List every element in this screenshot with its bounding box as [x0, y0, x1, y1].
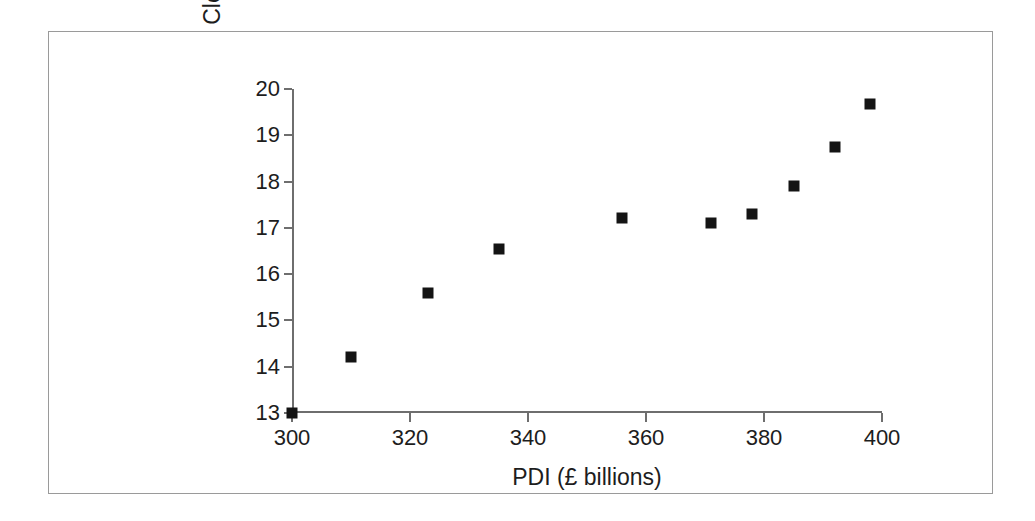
x-axis-tick	[645, 413, 647, 422]
y-axis-tick-label: 16	[256, 263, 280, 285]
x-axis-tick	[763, 413, 765, 422]
data-point	[346, 352, 357, 363]
y-axis-tick-label: 19	[256, 124, 280, 146]
x-axis-tick-label: 340	[510, 427, 547, 449]
data-point	[493, 243, 504, 254]
y-axis-tick	[284, 227, 292, 229]
x-axis-tick-label: 380	[746, 427, 783, 449]
data-point	[287, 408, 298, 419]
data-point	[788, 181, 799, 192]
y-axis-tick-label: 15	[256, 309, 280, 331]
x-axis-tick-label: 320	[392, 427, 429, 449]
plot-area: 1314151617181920 300320340360380400	[292, 89, 882, 413]
y-axis-tick	[284, 273, 292, 275]
y-axis-tick-label: 17	[256, 217, 280, 239]
data-point	[829, 141, 840, 152]
data-point	[617, 212, 628, 223]
y-axis-tick-label: 18	[256, 171, 280, 193]
y-axis-tick	[284, 88, 292, 90]
y-axis-tick	[284, 366, 292, 368]
y-axis-tick-label: 13	[256, 402, 280, 424]
y-axis-label: Clothing (£ billions)	[199, 0, 233, 89]
y-axis-tick-label: 20	[256, 78, 280, 100]
x-axis-tick	[409, 413, 411, 422]
data-point	[865, 98, 876, 109]
x-axis-tick	[527, 413, 529, 422]
y-axis-tick	[284, 134, 292, 136]
figure-page: 1314151617181920 300320340360380400 PDI …	[0, 0, 1035, 521]
data-point	[705, 218, 716, 229]
x-axis-tick	[881, 413, 883, 422]
y-axis-tick-label: 14	[256, 356, 280, 378]
x-axis-tick-label: 360	[628, 427, 665, 449]
y-axis-line	[292, 89, 294, 413]
y-axis-tick	[284, 319, 292, 321]
figure-frame: 1314151617181920 300320340360380400 PDI …	[48, 31, 993, 494]
y-axis-tick	[284, 181, 292, 183]
x-axis-tick-label: 300	[274, 427, 311, 449]
x-axis-line	[292, 411, 882, 413]
data-point	[747, 208, 758, 219]
data-point	[422, 287, 433, 298]
x-axis-label: PDI (£ billions)	[292, 464, 882, 491]
x-axis-tick-label: 400	[864, 427, 901, 449]
